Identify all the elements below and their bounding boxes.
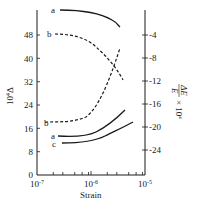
curve-label-c: c [52, 139, 56, 149]
left-y-axis-title: 104Δ [5, 87, 15, 105]
x-axis-title: Strain [80, 190, 102, 200]
chart: 10-7 10-6 10-5 Strain 0 8 16 24 32 40 48… [0, 0, 198, 206]
svg-text:-12: -12 [149, 76, 161, 86]
curve-label-b-upper: b [47, 29, 52, 39]
x-ticks [53, 171, 142, 175]
svg-text:24: 24 [24, 100, 34, 110]
svg-text:E: E [170, 87, 180, 94]
curve-label-b-lower: b [44, 118, 49, 128]
curve-a-lower [58, 110, 125, 136]
x-tick-label-1e-6: 10-6 [84, 179, 98, 189]
right-y-tick-labels: -4 -8 -12 -16 -20 -24 [149, 30, 161, 155]
x-tick-label-1e-7: 10-7 [30, 179, 44, 189]
svg-text:-20: -20 [149, 122, 161, 132]
curve-label-a-upper: a [51, 5, 55, 15]
svg-text:16: 16 [24, 124, 34, 134]
svg-text:× 104: × 104 [174, 100, 184, 119]
svg-text:-16: -16 [149, 99, 161, 109]
curve-a-upper [60, 10, 120, 27]
svg-text:0: 0 [29, 170, 34, 180]
svg-text:-24: -24 [149, 145, 161, 155]
right-y-axis-title: ΔE E × 104 [170, 84, 189, 119]
left-y-tick-labels: 0 8 16 24 32 40 48 [24, 30, 34, 180]
svg-text:-8: -8 [149, 53, 157, 63]
curve-c [62, 122, 133, 143]
curve-b-upper [55, 34, 123, 80]
svg-text:48: 48 [24, 30, 34, 40]
svg-text:8: 8 [29, 147, 34, 157]
svg-text:40: 40 [24, 54, 34, 64]
svg-text:32: 32 [24, 77, 33, 87]
svg-text:-4: -4 [149, 30, 157, 40]
x-tick-label-1e-5: 10-5 [138, 179, 152, 189]
